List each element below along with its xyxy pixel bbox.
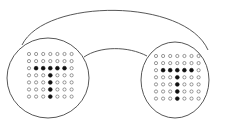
unlit-dot [176,54,179,57]
unlit-dot [49,60,52,63]
unlit-dot [42,60,45,63]
display-circle-outline [7,38,89,118]
unlit-dot [27,95,30,98]
unlit-dot [27,60,30,63]
lit-dot [48,81,52,85]
unlit-dot [42,88,45,91]
unlit-dot [154,62,157,65]
unlit-dot [197,69,200,72]
unlit-dot [27,74,30,77]
lit-dot [41,66,45,70]
unlit-dot [154,54,157,57]
unlit-dot [63,81,66,84]
connector-inner-arc [84,49,147,57]
unlit-dot [56,88,59,91]
unlit-dot [70,95,73,98]
lit-dot [175,97,179,101]
lit-dot [175,83,179,87]
unlit-dot [197,90,200,93]
unlit-dot [63,60,66,63]
unlit-dot [56,60,59,63]
lit-dot [183,68,187,72]
lit-dot [48,88,52,92]
unlit-dot [49,52,52,55]
unlit-dot [176,62,179,65]
unlit-dot [162,90,165,93]
unlit-dot [183,90,186,93]
unlit-dot [27,52,30,55]
left-display [7,38,89,118]
unlit-dot [42,52,45,55]
lit-dot [175,90,179,94]
lit-dot [48,73,52,77]
unlit-dot [42,74,45,77]
unlit-dot [197,97,200,100]
unlit-dot [183,83,186,86]
unlit-dot [35,60,38,63]
unlit-dot [35,81,38,84]
unlit-dot [169,97,172,100]
display-circle-outline [141,42,209,118]
lit-dot [48,66,52,70]
unlit-dot [56,95,59,98]
diagram-canvas [0,0,225,122]
unlit-dot [70,88,73,91]
unlit-dot [169,76,172,79]
unlit-dot [154,76,157,79]
unlit-dot [42,95,45,98]
lit-dot [48,95,52,99]
unlit-dot [70,74,73,77]
lit-dot [168,68,172,72]
unlit-dot [154,69,157,72]
unlit-dot [35,88,38,91]
unlit-dot [162,54,165,57]
unlit-dot [162,76,165,79]
unlit-dot [183,54,186,57]
unlit-dot [70,67,73,70]
unlit-dot [169,62,172,65]
unlit-dot [27,88,30,91]
lit-dot [175,68,179,72]
unlit-dot [183,76,186,79]
unlit-dot [63,52,66,55]
unlit-dot [169,83,172,86]
unlit-dot [190,54,193,57]
unlit-dot [35,74,38,77]
unlit-dot [56,81,59,84]
unlit-dot [190,62,193,65]
unlit-dot [35,52,38,55]
unlit-dot [190,83,193,86]
unlit-dot [70,52,73,55]
unlit-dot [197,54,200,57]
unlit-dot [183,62,186,65]
unlit-dot [162,83,165,86]
unlit-dot [35,95,38,98]
unlit-dot [162,97,165,100]
unlit-dot [154,83,157,86]
unlit-dot [42,81,45,84]
unlit-dot [190,97,193,100]
unlit-dot [197,76,200,79]
unlit-dot [27,67,30,70]
unlit-dot [154,90,157,93]
unlit-dot [183,97,186,100]
unlit-dot [63,95,66,98]
unlit-dot [70,81,73,84]
unlit-dot [169,90,172,93]
lit-dot [161,68,165,72]
unlit-dot [197,62,200,65]
unlit-dot [162,62,165,65]
lit-dot [175,75,179,79]
unlit-dot [56,74,59,77]
lit-dot [63,66,67,70]
unlit-dot [63,74,66,77]
lit-dot [34,66,38,70]
unlit-dot [197,83,200,86]
unlit-dot [27,81,30,84]
unlit-dot [190,90,193,93]
right-display [141,42,209,118]
lit-dot [190,68,194,72]
unlit-dot [190,76,193,79]
unlit-dot [70,60,73,63]
unlit-dot [169,54,172,57]
